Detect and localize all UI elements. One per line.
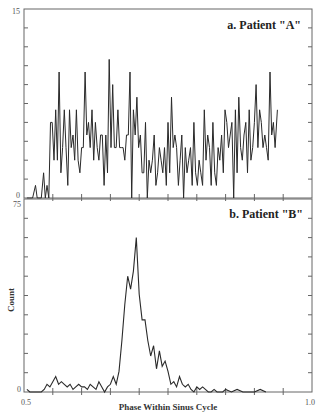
panel-b-ymin-label: 0	[17, 385, 21, 394]
panel-a-ymax-label: 15	[12, 7, 20, 16]
x-min-label: 0.5	[21, 398, 31, 407]
panel-a-series-line	[27, 59, 278, 198]
x-axis-title: Phase Within Sinus Cycle	[119, 402, 217, 412]
y-axis-title: Count	[6, 288, 16, 312]
panel-b: b. Patient "B" 75 0	[13, 199, 312, 395]
panel-b-ymax-label: 75	[13, 200, 21, 209]
phase-histogram-figure: a. Patient "A" 15 0 b. Patient "B" 75 0 …	[0, 0, 324, 420]
panel-a-ymin-label: 0	[16, 191, 20, 200]
panel-b-series-line	[27, 238, 266, 392]
panel-b-ticks	[24, 218, 312, 395]
panel-a: a. Patient "A" 15 0	[12, 7, 312, 201]
panel-a-title: a. Patient "A"	[227, 18, 301, 32]
panel-b-title: b. Patient "B"	[229, 207, 303, 221]
panel-b-frame	[24, 199, 312, 392]
x-max-label: 1.0	[305, 398, 315, 407]
